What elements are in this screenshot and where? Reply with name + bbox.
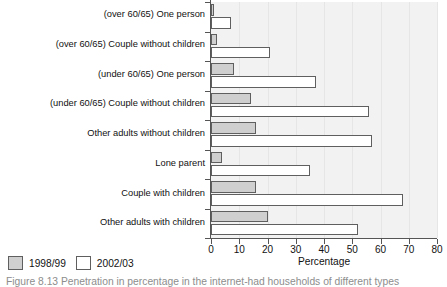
bar-group bbox=[211, 150, 437, 180]
y-axis-tick bbox=[205, 61, 210, 62]
x-axis-tick-label: 0 bbox=[208, 244, 214, 255]
gridline bbox=[437, 2, 438, 238]
x-axis-tick-label: 50 bbox=[347, 244, 358, 255]
bar-1998-99 bbox=[211, 211, 268, 223]
bar-2002-03 bbox=[211, 224, 358, 236]
bar-group bbox=[211, 120, 437, 150]
bar-group bbox=[211, 179, 437, 209]
y-axis-tick bbox=[205, 2, 210, 3]
legend-swatch-icon bbox=[8, 256, 23, 270]
category-axis-labels: (over 60/65) One person (over 60/65) Cou… bbox=[0, 0, 209, 238]
y-axis-tick bbox=[205, 32, 210, 33]
x-axis-tick-label: 10 bbox=[234, 244, 245, 255]
legend-swatch-icon bbox=[76, 256, 91, 270]
legend-label: 1998/99 bbox=[29, 258, 66, 269]
y-axis-tick bbox=[205, 150, 210, 151]
bar-group bbox=[211, 209, 437, 239]
y-axis-ticks bbox=[205, 0, 211, 238]
category-label: (under 60/65) One person bbox=[0, 60, 209, 90]
bar-1998-99 bbox=[211, 63, 234, 75]
x-axis-tick-label: 30 bbox=[290, 244, 301, 255]
legend-item-2002-03: 2002/03 bbox=[76, 256, 134, 270]
bar-1998-99 bbox=[211, 93, 251, 105]
bar-2002-03 bbox=[211, 165, 310, 177]
bar-2002-03 bbox=[211, 194, 403, 206]
category-label: Lone parent bbox=[0, 149, 209, 179]
x-axis-tick-label: 20 bbox=[262, 244, 273, 255]
category-label: (over 60/65) One person bbox=[0, 0, 209, 30]
bar-2002-03 bbox=[211, 135, 372, 147]
bar-1998-99 bbox=[211, 181, 256, 193]
bar-2002-03 bbox=[211, 47, 270, 59]
bars-layer bbox=[211, 2, 437, 238]
y-axis-tick bbox=[205, 120, 210, 121]
x-axis-title: Percentage bbox=[211, 256, 437, 267]
figure-caption: Figure 8.13 Penetration in percentage in… bbox=[6, 276, 447, 287]
category-label: (under 60/65) Couple without children bbox=[0, 89, 209, 119]
x-axis-tick-label: 40 bbox=[318, 244, 329, 255]
category-label: Couple with children bbox=[0, 179, 209, 209]
bar-chart-figure: (over 60/65) One person (over 60/65) Cou… bbox=[0, 0, 447, 287]
bar-2002-03 bbox=[211, 106, 369, 118]
x-axis-tick-label: 60 bbox=[375, 244, 386, 255]
category-label: Other adults without children bbox=[0, 119, 209, 149]
y-axis-tick bbox=[205, 179, 210, 180]
legend-item-1998-99: 1998/99 bbox=[8, 256, 66, 270]
category-label: (over 60/65) Couple without children bbox=[0, 30, 209, 60]
legend-label: 2002/03 bbox=[97, 258, 134, 269]
x-axis-tick-label: 70 bbox=[403, 244, 414, 255]
bar-group bbox=[211, 32, 437, 62]
bar-1998-99 bbox=[211, 4, 214, 16]
bar-group bbox=[211, 2, 437, 32]
bar-group bbox=[211, 91, 437, 121]
bar-2002-03 bbox=[211, 17, 231, 29]
bar-2002-03 bbox=[211, 76, 316, 88]
plot-wrapper: (over 60/65) One person (over 60/65) Cou… bbox=[0, 0, 447, 240]
bar-group bbox=[211, 61, 437, 91]
category-label: Other adults with children bbox=[0, 208, 209, 238]
x-axis-tick-label: 80 bbox=[431, 244, 442, 255]
bar-1998-99 bbox=[211, 152, 222, 164]
bar-1998-99 bbox=[211, 122, 256, 134]
y-axis-tick bbox=[205, 91, 210, 92]
bar-1998-99 bbox=[211, 34, 217, 46]
y-axis-tick bbox=[205, 209, 210, 210]
chart-legend: 1998/99 2002/03 bbox=[8, 256, 134, 270]
